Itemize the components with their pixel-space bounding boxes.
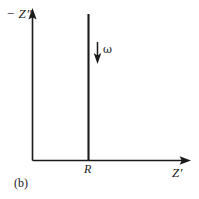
resistance-intercept-label: R bbox=[84, 163, 91, 175]
y-axis-label: − Z″ bbox=[6, 7, 32, 20]
panel-caption: (b) bbox=[14, 177, 28, 189]
plot-canvas bbox=[0, 0, 199, 199]
x-axis-label: Z′ bbox=[172, 166, 183, 179]
omega-frequency-label: ω bbox=[103, 44, 112, 55]
impedance-nyquist-figure: − Z″ Z′ R ω (b) bbox=[0, 0, 199, 199]
